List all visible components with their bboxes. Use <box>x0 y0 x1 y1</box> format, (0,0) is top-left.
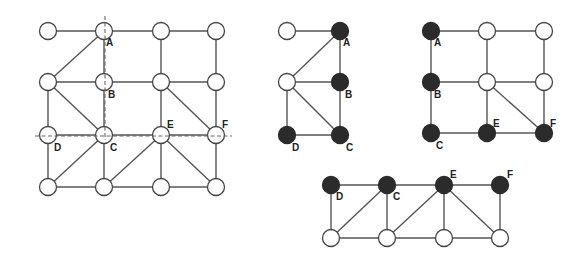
node <box>96 179 113 196</box>
node <box>153 179 170 196</box>
node <box>379 230 396 247</box>
node-label-e: E <box>450 169 457 180</box>
node-f <box>492 177 509 194</box>
node-label-e: E <box>493 118 500 129</box>
graph-partition-figure: ABDCEF ABDC ABCEF DCEF <box>0 0 583 260</box>
node <box>436 230 453 247</box>
node <box>279 23 296 40</box>
node <box>208 74 225 91</box>
node-label-c: C <box>393 191 400 202</box>
node <box>479 23 496 40</box>
edge-E-b3 <box>444 185 500 238</box>
node-label-b: B <box>108 89 115 100</box>
node-label-f: F <box>550 118 556 129</box>
node-label-a: A <box>106 37 113 48</box>
node-label-c: C <box>436 140 443 151</box>
node-label-b: B <box>434 89 441 100</box>
node-label-c: C <box>110 142 117 153</box>
node-d <box>40 127 57 144</box>
node-label-d: D <box>292 142 299 153</box>
node-label-d: D <box>336 191 343 202</box>
edge-n10-C <box>48 82 104 135</box>
node-label-b: B <box>345 89 352 100</box>
node-label-d: D <box>54 142 61 153</box>
node <box>492 230 509 247</box>
bottom-partition-graph: DCEF <box>323 169 514 247</box>
node-c <box>332 127 349 144</box>
full-grid-graph: ABDCEF <box>35 16 232 196</box>
edge-A-p1 <box>287 31 340 82</box>
node <box>40 179 57 196</box>
node <box>536 23 553 40</box>
edge-A-n10 <box>48 31 104 82</box>
left-partition-graph: ABDC <box>279 23 354 154</box>
node <box>208 179 225 196</box>
node-label-c: C <box>346 142 353 153</box>
node-b <box>423 74 440 91</box>
node <box>40 23 57 40</box>
node <box>40 74 57 91</box>
node-c <box>423 125 440 142</box>
node <box>208 23 225 40</box>
node <box>153 23 170 40</box>
node-label-a: A <box>343 37 350 48</box>
node <box>323 230 340 247</box>
node <box>536 74 553 91</box>
node-c <box>96 127 113 144</box>
edge-E-n33 <box>161 135 216 187</box>
node-d <box>279 127 296 144</box>
edge-p1-C <box>287 82 340 135</box>
node-label-e: E <box>167 119 174 130</box>
node <box>279 74 296 91</box>
right-partition-graph: ABCEF <box>423 23 557 152</box>
node-b <box>96 74 113 91</box>
node-b <box>332 74 349 91</box>
node-label-f: F <box>507 169 513 180</box>
node <box>479 74 496 91</box>
node <box>153 74 170 91</box>
node-label-f: F <box>222 119 228 130</box>
node-label-a: A <box>434 37 441 48</box>
